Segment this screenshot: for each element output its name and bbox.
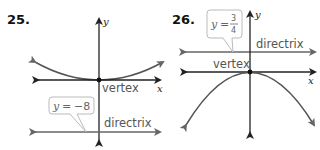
directrix-label: directrix	[104, 116, 152, 130]
callout-variable: y	[210, 18, 218, 31]
y-axis-label: y	[102, 16, 109, 27]
x-axis-label: x	[308, 75, 314, 86]
callout-equals: =	[62, 100, 71, 113]
vertex-label: vertex	[102, 81, 139, 95]
problem-25: 25. y x vertex directrix y = −8	[0, 0, 160, 150]
callout-numerator: 3	[231, 14, 236, 23]
directrix-equation-callout: y = 3 4	[207, 10, 242, 52]
directrix-equation-callout: y = −8	[49, 97, 94, 132]
y-axis-label: y	[254, 9, 261, 20]
graph-25: y x vertex directrix y = −8	[0, 0, 160, 150]
vertex-point	[97, 78, 102, 83]
callout-denominator: 4	[231, 26, 236, 35]
problem-26: 26. directrix x y vertex y = 3	[160, 0, 320, 150]
callout-variable: y	[52, 100, 60, 113]
graph-26: directrix x y vertex y = 3 4	[160, 0, 320, 150]
callout-value: −8	[74, 100, 90, 113]
vertex-label: vertex	[213, 57, 250, 71]
directrix-label: directrix	[256, 37, 304, 51]
callout-equals: =	[220, 18, 229, 31]
